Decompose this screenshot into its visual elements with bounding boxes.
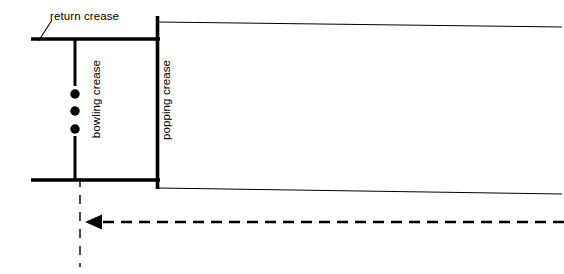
- pitch-edge-bottom-line: [158, 188, 562, 194]
- pitch-edge-top-line: [158, 22, 562, 27]
- measurement-arrow-head: [85, 215, 102, 230]
- label-return-crease: return crease: [50, 11, 119, 23]
- stump-dot-1: [70, 89, 79, 98]
- diagram-canvas: [0, 0, 564, 274]
- label-bowling-crease: bowling crease: [91, 60, 103, 138]
- stump-dot-2: [70, 106, 79, 115]
- stump-dot-3: [70, 124, 79, 133]
- cricket-crease-diagram: return crease bowling crease popping cre…: [0, 0, 564, 274]
- label-popping-crease: popping crease: [161, 60, 173, 140]
